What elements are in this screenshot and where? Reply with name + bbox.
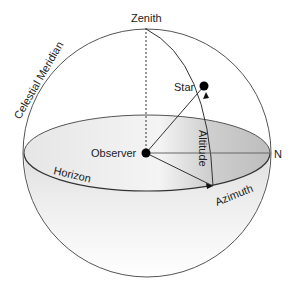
- observer-label: Observer: [91, 147, 137, 159]
- altitude-label: Altitude: [197, 130, 209, 167]
- star-label: Star: [174, 81, 195, 93]
- celestial-sphere-diagram: Zenith Star Observer N Altitude Horizon …: [0, 0, 295, 293]
- observer-point: [142, 149, 151, 158]
- north-label: N: [274, 148, 282, 160]
- altitude-arrow-icon: [203, 92, 209, 99]
- star-point: [200, 82, 209, 91]
- zenith-label: Zenith: [131, 12, 162, 24]
- celestial-meridian-label: Celestial Meridian: [11, 39, 65, 121]
